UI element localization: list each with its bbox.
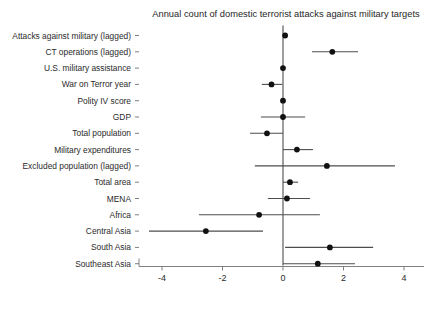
- estimate-point: [282, 33, 288, 39]
- estimate-point: [280, 65, 286, 71]
- coefficient-plot-figure: Annual count of domestic terrorist attac…: [0, 0, 436, 312]
- estimate-point: [264, 130, 270, 136]
- plot-area: [0, 0, 436, 312]
- estimate-point: [327, 245, 333, 251]
- estimate-point: [280, 98, 286, 104]
- x-axis-tick-label: -2: [218, 274, 226, 283]
- estimate-point: [315, 261, 321, 267]
- estimate-point: [294, 147, 300, 153]
- estimate-point: [287, 179, 293, 185]
- x-axis-tick-label: 2: [341, 274, 346, 283]
- estimate-point: [256, 212, 262, 218]
- x-axis-tick-label: 0: [280, 274, 285, 283]
- estimate-point: [324, 163, 330, 169]
- estimate-point: [284, 196, 290, 202]
- estimate-point: [203, 228, 209, 234]
- x-axis-tick-label: 4: [401, 274, 406, 283]
- estimate-point: [329, 49, 335, 55]
- estimate-point: [269, 82, 275, 88]
- x-axis-tick-label: -4: [158, 274, 166, 283]
- estimate-point: [280, 114, 286, 120]
